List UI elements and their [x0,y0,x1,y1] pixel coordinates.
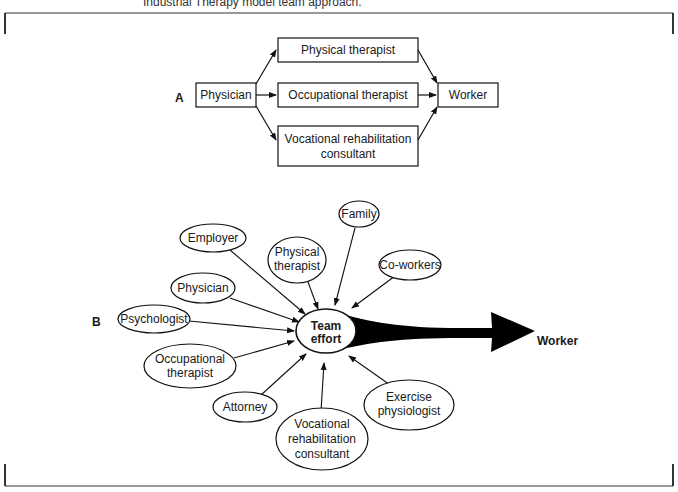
node-occupational-therapist-label-1: Occupational [155,352,225,366]
box-physician-label: Physician [200,88,251,102]
node-psychologist-label: Psychologist [120,312,188,326]
box-occupational-therapist-label: Occupational therapist [288,88,408,102]
big-arrow-to-worker [335,312,535,352]
panel-b: B Worker Team effort [92,201,578,470]
hub-label-2: effort [311,332,342,346]
node-exercise-physiologist-label-1: Exercise [386,390,432,404]
panel-a-label: A [175,91,184,105]
node-vocational-rehab-label-3: consultant [295,447,350,461]
box-vocational-rehab-label-2: consultant [321,147,376,161]
panel-a: A Physician Physical therapist Occupatio… [175,38,498,166]
node-employer-label: Employer [188,231,239,245]
node-attorney-label: Attorney [223,400,268,414]
box-physical-therapist-label: Physical therapist [301,43,396,57]
node-co-workers-label: Co-workers [379,258,440,272]
box-worker-a-label: Worker [449,88,487,102]
node-family-label: Family [341,207,376,221]
node-physical-therapist-label-2: therapist [274,259,321,273]
box-vocational-rehab-label-1: Vocational rehabilitation [285,132,412,146]
node-occupational-therapist-label-2: therapist [167,366,214,380]
node-vocational-rehab-label-2: rehabilitation [288,432,356,446]
node-physician-label: Physician [177,281,228,295]
hub-label-1: Team [311,319,341,333]
team-approach-diagram: A Physician Physical therapist Occupatio… [0,0,678,492]
worker-b-label: Worker [537,334,578,348]
node-vocational-rehab-label-1: Vocational [294,417,349,431]
node-physical-therapist-label-1: Physical [275,245,320,259]
panel-b-label: B [92,315,101,329]
node-exercise-physiologist-label-2: physiologist [378,404,441,418]
